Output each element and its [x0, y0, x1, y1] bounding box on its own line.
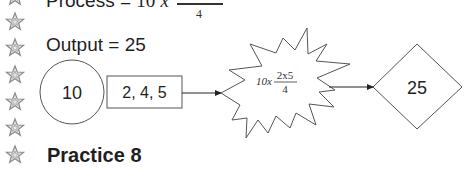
input-circle: 10	[40, 60, 104, 124]
output-diamond: 25	[373, 44, 462, 129]
process-starburst: 10x 2x5 4	[221, 28, 350, 138]
burst-numerator: 2x5	[277, 69, 294, 81]
output-value: 25	[407, 78, 427, 98]
values-text: 2, 4, 5	[122, 84, 167, 101]
burst-multiplier: 10x	[256, 75, 272, 87]
burst-denominator: 4	[282, 83, 288, 95]
practice-heading: Practice 8	[47, 144, 142, 167]
input-value: 10	[62, 83, 82, 103]
values-box: 2, 4, 5	[107, 76, 182, 108]
